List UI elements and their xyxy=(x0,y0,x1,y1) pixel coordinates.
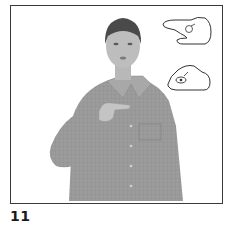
illustration-frame xyxy=(10,5,223,204)
handshape-bottom-icon xyxy=(168,66,210,91)
person-figure xyxy=(50,18,183,201)
signer-photo xyxy=(11,6,223,204)
handshape-top-icon xyxy=(163,17,211,44)
figure-number: 11 xyxy=(10,208,30,224)
